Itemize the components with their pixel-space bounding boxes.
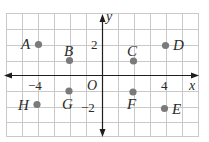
y-axis-up-arrow-icon — [100, 14, 106, 22]
point-a — [35, 41, 42, 48]
point-label-f: F — [127, 97, 136, 112]
y-tick-2: 2 — [91, 38, 98, 51]
y-axis-label: y — [106, 10, 112, 24]
x-axis-label: x — [189, 79, 195, 93]
point-label-e: E — [172, 102, 181, 117]
point-label-g: G — [62, 97, 73, 112]
point-label-b: B — [64, 44, 73, 59]
x-tick-neg4: −4 — [28, 79, 42, 92]
point-h — [33, 101, 40, 108]
point-label-c: C — [127, 44, 137, 59]
origin-label: O — [87, 79, 97, 93]
x-tick-4: 4 — [161, 79, 168, 92]
point-f — [129, 88, 136, 95]
point-label-a: A — [21, 37, 30, 52]
point-e — [161, 105, 168, 112]
point-label-d: D — [173, 38, 184, 53]
point-label-h: H — [18, 98, 29, 113]
y-axis-down-arrow-icon — [100, 129, 106, 137]
coordinate-plane — [0, 0, 209, 142]
point-g — [65, 87, 72, 94]
point-d — [162, 42, 169, 49]
points — [33, 41, 169, 112]
y-tick-neg2: −2 — [81, 101, 95, 114]
x-axis-left-arrow-icon — [4, 73, 12, 79]
